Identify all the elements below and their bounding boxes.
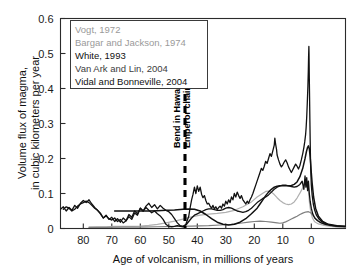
bend-label-line2: Emperor chain — [182, 85, 192, 148]
x-tick-label: 50 — [163, 234, 175, 246]
y-tick-label: 0.6 — [38, 13, 53, 25]
x-tick-label: 70 — [106, 234, 118, 246]
magma-flux-chart-figure: 00.10.20.30.40.50.6 80706050403020100 Be… — [0, 0, 357, 277]
x-tick-label: 10 — [277, 234, 289, 246]
x-tick-label: 0 — [308, 234, 314, 246]
legend-entry-label: Vogt, 1972 — [75, 24, 120, 35]
y-axis-title-line2: in cubic kilometers per year — [29, 56, 41, 190]
legend: Vogt, 1972Bargar and Jackson, 1974White,… — [71, 21, 208, 89]
x-tick-label: 40 — [191, 234, 203, 246]
x-tick-label: 80 — [77, 234, 89, 246]
y-axis-title-line1: Volume flux of magma, — [16, 67, 28, 179]
x-axis-title: Age of volcanism, in millions of years — [113, 253, 294, 265]
legend-entry-label: Van Ark and Lin, 2004 — [75, 63, 168, 74]
x-tick-label: 30 — [220, 234, 232, 246]
x-tick-label: 60 — [134, 234, 146, 246]
legend-entry-label: White, 1993 — [75, 50, 126, 61]
legend-entry-label: Bargar and Jackson, 1974 — [75, 37, 186, 48]
chart-canvas: 00.10.20.30.40.50.6 80706050403020100 Be… — [0, 0, 357, 277]
legend-entry-label: Vidal and Bonneville, 2004 — [75, 76, 187, 87]
y-tick-label: 0 — [47, 223, 53, 235]
x-tick-label: 20 — [248, 234, 260, 246]
